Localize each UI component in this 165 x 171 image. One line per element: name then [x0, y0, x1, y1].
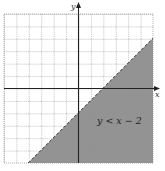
inequality-label: y < x − 2: [96, 115, 142, 126]
inequality-graph: x y y < x − 2: [0, 0, 165, 171]
y-axis-label: y: [70, 2, 76, 11]
x-axis-label: x: [155, 90, 160, 99]
y-axis-arrow-icon: [76, 2, 81, 8]
